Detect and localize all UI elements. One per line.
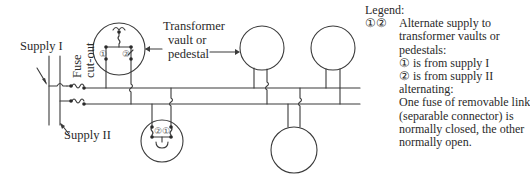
t4-label-one: ① (162, 126, 170, 136)
transformer-5 (271, 127, 317, 173)
legend-key: ①② (365, 17, 399, 149)
t1-label-two: ② (122, 49, 130, 59)
t4-label-two: ② (154, 126, 162, 136)
legend-entry: ①② Alternate supply to transformer vault… (365, 17, 530, 149)
legend-line: (separable connector) is (399, 110, 530, 123)
transformer-label-line1: Transformer (163, 19, 225, 33)
t1-label-one: ① (99, 49, 107, 59)
fuse-label-line2: cut-out (83, 42, 97, 78)
transformer-label-line3: pedestal (168, 47, 209, 61)
transformer-label-line2: vault or (168, 33, 207, 47)
legend-line: transformer vaults or (399, 30, 530, 43)
supply-1-label: Supply I (20, 39, 63, 53)
supply-2-label: Supply II (64, 128, 111, 142)
legend-line: normally open. (399, 136, 530, 149)
legend: Legend: ①② Alternate supply to transform… (365, 4, 530, 149)
fuse-cutout-2 (60, 99, 360, 104)
legend-body: Alternate supply to transformer vaults o… (399, 17, 530, 149)
legend-line: One fuse of removable link (399, 96, 530, 109)
transformer-2 (240, 26, 284, 70)
fuse-label-line1: Fuse (70, 54, 84, 78)
legend-line: pedestals: (399, 44, 530, 57)
transformer-3 (311, 26, 355, 70)
fuse-cutout-1 (49, 84, 360, 89)
